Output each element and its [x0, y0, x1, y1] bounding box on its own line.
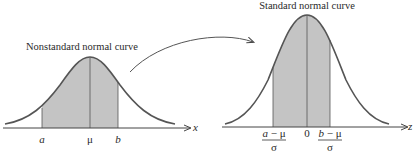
left-axis-label: x [192, 121, 198, 133]
right-tick-right-denominator: σ [327, 141, 333, 153]
left-tick-a: a [39, 133, 45, 145]
transform-arrow [130, 37, 253, 72]
normal-curve-transformation-diagram: x a μ b Nonstandard normal curve z Stand… [0, 0, 414, 156]
left-tick-b: b [115, 133, 121, 145]
right-axis-label: z [407, 120, 413, 132]
standard-normal-panel: z Standard normal curve a − μ σ 0 b − μ … [222, 0, 413, 153]
right-tick-left-numerator: a − μ [262, 127, 285, 139]
right-tick-zero: 0 [304, 127, 310, 139]
left-panel-title: Nonstandard normal curve [26, 41, 138, 52]
nonstandard-normal-panel: x a μ b Nonstandard normal curve [3, 41, 198, 145]
right-panel-title: Standard normal curve [259, 0, 355, 11]
left-tick-mu: μ [87, 133, 93, 145]
right-tick-right-numerator: b − μ [318, 127, 341, 139]
right-tick-left-denominator: σ [271, 141, 277, 153]
